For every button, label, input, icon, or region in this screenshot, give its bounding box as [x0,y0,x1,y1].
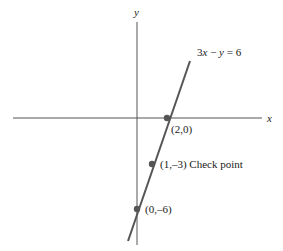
equation-minus: − [207,46,219,58]
equation-rhs: = 6 [224,46,242,58]
x-axis-label: x [266,112,272,124]
point-x-intercept [164,115,170,121]
point-check-label: (1,–3) Check point [160,158,243,171]
point-check [149,161,155,167]
point-y-intercept-label: (0,–6) [145,203,172,216]
equation-label: 3x − y = 6 [197,46,242,58]
y-axis-label: y [133,6,139,18]
graph-canvas: x y 3x − y = 6 (2,0) (1,–3) Check point … [0,0,283,251]
point-y-intercept [134,206,140,212]
point-x-intercept-label: (2,0) [171,123,192,136]
